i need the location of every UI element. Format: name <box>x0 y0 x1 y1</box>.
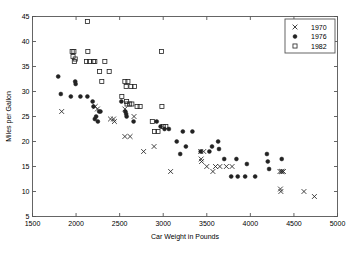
marker-filled-circle <box>125 115 129 119</box>
marker-filled-circle <box>207 150 211 154</box>
x-tick-label: 5000 <box>330 220 346 227</box>
marker-filled-circle <box>96 120 100 124</box>
marker-filled-circle <box>94 115 98 119</box>
marker-filled-circle <box>56 75 60 79</box>
marker-filled-circle <box>199 150 203 154</box>
marker-filled-circle <box>78 95 82 99</box>
marker-filled-circle <box>216 140 220 144</box>
y-tick-label: 5 <box>26 213 30 220</box>
marker-filled-circle <box>280 157 284 161</box>
y-tick-label: 15 <box>22 163 30 170</box>
x-axis-title: Car Weight in Pounds <box>151 233 219 241</box>
marker-filled-circle <box>175 140 179 144</box>
marker-filled-circle <box>74 82 78 86</box>
legend-label: 1970 <box>311 24 327 31</box>
y-tick-label: 25 <box>22 113 30 120</box>
marker-filled-circle <box>119 100 123 104</box>
marker-filled-circle <box>99 110 103 114</box>
x-tick-label: 4500 <box>286 220 302 227</box>
marker-filled-circle <box>163 127 167 131</box>
marker-filled-circle <box>69 95 73 99</box>
marker-filled-circle <box>222 157 226 161</box>
marker-filled-circle <box>132 120 136 124</box>
y-tick-label: 40 <box>22 38 30 45</box>
x-tick-label: 3500 <box>199 220 215 227</box>
marker-filled-circle <box>236 175 240 179</box>
marker-filled-circle <box>267 167 271 171</box>
marker-filled-circle <box>85 95 89 99</box>
y-tick-label: 10 <box>22 188 30 195</box>
legend-label: 1976 <box>311 33 327 40</box>
y-tick-label: 35 <box>22 63 30 70</box>
legend-label: 1982 <box>311 43 327 50</box>
marker-filled-circle <box>184 145 188 149</box>
y-tick-label: 30 <box>22 88 30 95</box>
x-tick-label: 1500 <box>25 220 41 227</box>
marker-filled-circle <box>217 147 221 151</box>
y-tick-label: 45 <box>22 13 30 20</box>
marker-filled-circle <box>159 125 163 129</box>
x-tick-label: 3000 <box>155 220 171 227</box>
marker-filled-circle <box>253 175 257 179</box>
marker-filled-circle <box>243 175 247 179</box>
marker-filled-circle <box>155 120 159 124</box>
marker-filled-circle <box>92 105 96 109</box>
x-tick-label: 2500 <box>112 220 128 227</box>
y-axis-title: Miles per Gallon <box>5 91 13 142</box>
marker-filled-circle <box>229 175 233 179</box>
scatter-plot-figure: 1500200025003000350040004500500051015202… <box>0 0 363 257</box>
marker-filled-circle <box>234 157 238 161</box>
marker-filled-circle <box>190 130 194 134</box>
marker-filled-circle <box>59 92 63 96</box>
marker-filled-circle <box>181 130 185 134</box>
marker-filled-circle <box>245 162 249 166</box>
marker-filled-circle <box>266 160 270 164</box>
marker-filled-circle <box>210 145 214 149</box>
marker-filled-circle <box>293 35 297 39</box>
x-tick-label: 2000 <box>68 220 84 227</box>
chart-canvas: 1500200025003000350040004500500051015202… <box>0 0 363 257</box>
marker-filled-circle <box>178 152 182 156</box>
marker-filled-circle <box>265 152 269 156</box>
legend-box <box>285 19 335 53</box>
marker-filled-circle <box>91 100 95 104</box>
x-tick-label: 4000 <box>243 220 259 227</box>
y-tick-label: 20 <box>22 138 30 145</box>
